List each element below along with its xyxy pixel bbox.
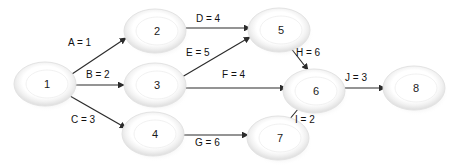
node-label-6: 6: [313, 85, 319, 97]
edge-label-b: B = 2: [86, 69, 110, 80]
edge-label-i: I = 2: [295, 114, 315, 125]
edge-label-a: A = 1: [68, 37, 92, 48]
node-label-1: 1: [44, 78, 50, 90]
edge-label-g: G = 6: [195, 137, 220, 148]
network-diagram-canvas: 12345678 A = 1B = 2C = 3D = 4E = 5F = 4G…: [0, 0, 450, 166]
node-3[interactable]: 3: [124, 63, 190, 113]
node-label-4: 4: [152, 128, 158, 140]
node-label-8: 8: [413, 82, 419, 94]
edge-label-j: J = 3: [345, 72, 367, 83]
node-2[interactable]: 2: [124, 9, 190, 59]
node-label-7: 7: [277, 132, 283, 144]
node-label-2: 2: [154, 25, 160, 37]
edge-label-f: F = 4: [222, 69, 246, 80]
node-1[interactable]: 1: [14, 62, 80, 112]
node-4[interactable]: 4: [122, 112, 188, 162]
network-diagram: 12345678 A = 1B = 2C = 3D = 4E = 5F = 4G…: [0, 0, 450, 166]
node-label-5: 5: [278, 24, 284, 36]
nodes-layer: 12345678: [14, 8, 449, 166]
edge-label-d: D = 4: [196, 13, 221, 24]
node-8[interactable]: 8: [383, 66, 449, 116]
edge-label-e: E = 5: [186, 47, 210, 58]
node-label-3: 3: [154, 79, 160, 91]
node-6[interactable]: 6: [283, 69, 349, 119]
edge-label-h: H = 6: [296, 47, 321, 58]
edge-label-c: C = 3: [71, 114, 96, 125]
